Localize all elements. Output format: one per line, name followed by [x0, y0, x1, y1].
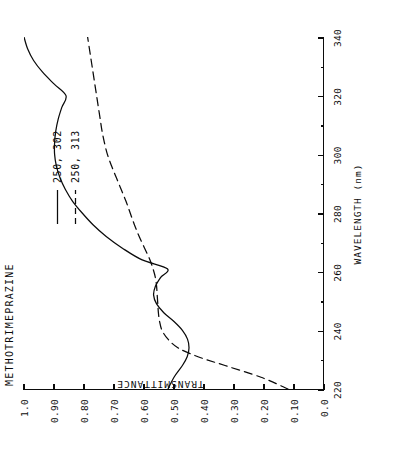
- x-tick-minor: [321, 301, 325, 302]
- x-tick-label: 260: [332, 264, 343, 282]
- y-tick-label: 0.20: [259, 399, 270, 443]
- rotated-figure: METHOTRIMEPRAZINE 2202402602803003203400…: [0, 0, 404, 456]
- x-tick-label: 320: [332, 88, 343, 106]
- x-tick: [318, 272, 324, 273]
- y-tick-label: 0.50: [169, 399, 180, 443]
- x-tick-minor: [321, 125, 325, 126]
- x-tick: [318, 37, 324, 38]
- dashed-line-icon: [71, 190, 80, 224]
- y-axis-title: TRANSMITTANCE: [10, 379, 310, 390]
- legend-label: 250, 313: [70, 130, 81, 183]
- y-tick-label: 0.70: [109, 399, 120, 443]
- x-tick-label: 300: [332, 146, 343, 164]
- series-curve-1: [88, 37, 288, 389]
- y-tick-label: 0.80: [79, 399, 90, 443]
- y-tick-label: 0.90: [49, 399, 60, 443]
- legend: 250, 302250, 313: [52, 130, 88, 224]
- legend-label: 250, 302: [52, 130, 63, 183]
- x-axis-title: WAVELENGTH (nm): [352, 38, 363, 390]
- y-tick-label: 0.60: [139, 399, 150, 443]
- x-tick: [318, 155, 324, 156]
- solid-line-icon: [53, 190, 62, 224]
- x-tick-label: 280: [332, 205, 343, 223]
- x-tick-label: 240: [332, 322, 343, 340]
- chart-title: METHOTRIMEPRAZINE: [4, 38, 15, 390]
- figure-canvas: METHOTRIMEPRAZINE 2202402602803003203400…: [0, 0, 404, 456]
- x-tick-minor: [321, 243, 325, 244]
- x-tick-label: 340: [332, 29, 343, 47]
- x-tick-minor: [321, 184, 325, 185]
- x-tick-minor: [321, 360, 325, 361]
- y-tick: [323, 384, 324, 390]
- chart-page: METHOTRIMEPRAZINE 2202402602803003203400…: [0, 0, 404, 456]
- x-tick: [318, 213, 324, 214]
- y-tick-label: 0.30: [229, 399, 240, 443]
- y-tick-label: 0.10: [289, 399, 300, 443]
- y-tick-label: 0.0: [319, 399, 330, 443]
- x-tick-label: 220: [332, 381, 343, 399]
- x-tick: [318, 96, 324, 97]
- x-tick-minor: [321, 67, 325, 68]
- legend-item[interactable]: 250, 302: [52, 130, 63, 224]
- x-tick: [318, 331, 324, 332]
- y-tick-label: 0.40: [199, 399, 210, 443]
- legend-item[interactable]: 250, 313: [70, 130, 81, 224]
- y-tick-label: 1.0: [19, 399, 30, 443]
- series-curve-0: [24, 37, 189, 389]
